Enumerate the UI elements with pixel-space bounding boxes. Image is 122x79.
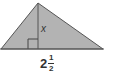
fraction-numerator: 1: [49, 54, 53, 62]
base-label: 2 1 2: [40, 54, 54, 73]
height-label: x: [41, 23, 46, 34]
fraction-denominator: 2: [49, 65, 53, 73]
base-fraction: 1 2: [48, 54, 54, 73]
triangle-diagram: [0, 0, 122, 79]
base-whole-number: 2: [40, 56, 47, 71]
triangle: [1, 3, 103, 49]
